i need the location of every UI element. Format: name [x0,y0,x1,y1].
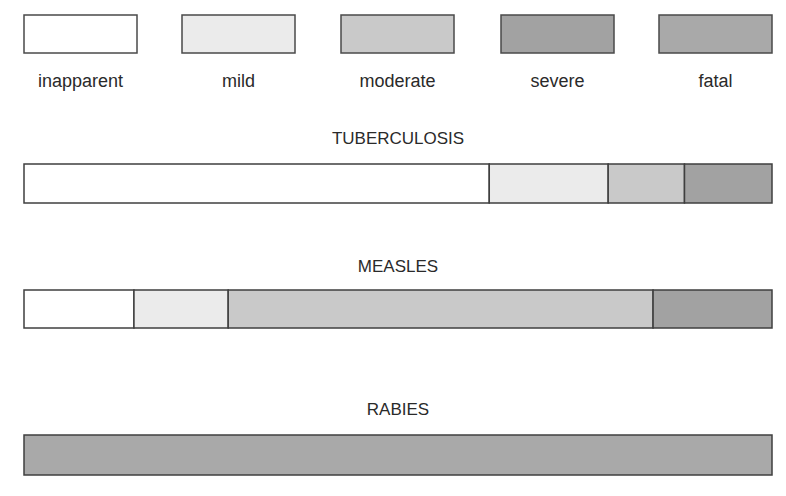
legend-item-fatal: fatal [659,15,772,91]
bar-segment-tuberculosis-severe [684,164,772,203]
bar-title-measles: MEASLES [358,257,438,276]
bar-segment-measles-inapparent [24,290,134,328]
legend-item-inapparent: inapparent [24,15,137,91]
bar-segment-rabies-fatal [24,435,772,475]
legend-item-severe: severe [501,15,614,91]
bar-title-tuberculosis: TUBERCULOSIS [332,129,464,148]
legend-label-inapparent: inapparent [38,71,123,91]
legend-swatch-moderate [341,15,454,53]
disease-severity-chart: inapparentmildmoderateseverefatal TUBERC… [0,0,786,496]
bar-group-measles: MEASLES [24,257,772,328]
legend-item-mild: mild [182,15,295,91]
legend-swatch-mild [182,15,295,53]
legend: inapparentmildmoderateseverefatal [24,15,772,91]
legend-label-mild: mild [222,71,255,91]
legend-label-severe: severe [530,71,584,91]
bar-group-tuberculosis: TUBERCULOSIS [24,129,772,203]
bar-segment-tuberculosis-moderate [608,164,684,203]
bar-segment-tuberculosis-inapparent [24,164,489,203]
bar-segment-measles-severe [653,290,772,328]
legend-swatch-fatal [659,15,772,53]
legend-swatch-severe [501,15,614,53]
legend-label-moderate: moderate [359,71,435,91]
legend-item-moderate: moderate [341,15,454,91]
bar-segment-tuberculosis-mild [489,164,608,203]
bars: TUBERCULOSISMEASLESRABIES [24,129,772,475]
legend-swatch-inapparent [24,15,137,53]
bar-segment-measles-moderate [228,290,653,328]
bar-group-rabies: RABIES [24,400,772,475]
bar-segment-measles-mild [134,290,228,328]
legend-label-fatal: fatal [698,71,732,91]
bar-title-rabies: RABIES [367,400,429,419]
